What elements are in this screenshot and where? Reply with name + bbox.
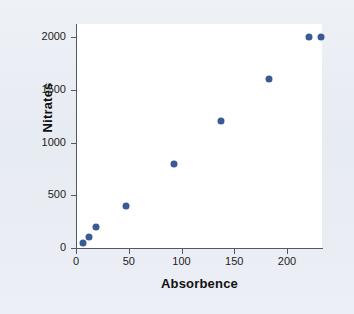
y-tick-mark [71,143,76,144]
scatter-point [171,160,178,167]
y-tick-mark [71,37,76,38]
chart-figure: 0500100015002000 050100150200 Absorbence… [0,0,354,314]
x-tick-mark [234,249,235,254]
scatter-point [266,76,273,83]
scatter-point [306,34,313,41]
x-tick-mark [76,249,77,254]
x-axis-line [76,248,323,249]
plot-area [76,24,322,248]
x-tick-label: 0 [73,256,79,267]
y-tick-label: 1000 [42,137,66,148]
scatter-point [317,34,324,41]
y-tick-mark [71,195,76,196]
x-tick-mark [129,249,130,254]
scatter-point [85,234,92,241]
x-tick-mark [182,249,183,254]
scatter-point [217,118,224,125]
x-tick-mark [287,249,288,254]
x-tick-label: 100 [172,256,190,267]
x-axis-title: Absorbence [76,276,323,291]
scatter-point [93,223,100,230]
x-tick-label: 200 [278,256,296,267]
y-tick-label: 500 [48,189,66,200]
x-tick-label: 150 [225,256,243,267]
y-axis-title: Nitrates [40,82,55,132]
x-tick-label: 50 [123,256,135,267]
y-tick-mark [71,90,76,91]
y-axis-line [76,24,77,249]
y-tick-label: 2000 [42,31,66,42]
y-tick-label: 0 [60,242,66,253]
scatter-point [122,202,129,209]
